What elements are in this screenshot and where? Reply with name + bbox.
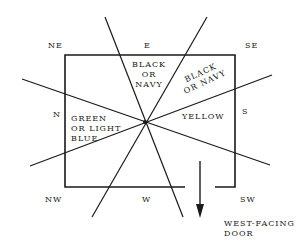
zone-north-line2: OR LIGHT (71, 124, 121, 134)
direction-label-nw: NW (45, 195, 62, 205)
zone-east-line3: NAVY (132, 80, 166, 90)
door-label: WEST-FACING DOOR (224, 219, 295, 239)
zone-east-line2: OR (132, 70, 166, 80)
zone-north-label: GREEN OR LIGHT BLUE (71, 114, 121, 144)
direction-label-se: SE (245, 41, 258, 51)
direction-label-sw: SW (240, 195, 256, 205)
arrow-down-icon (196, 204, 204, 218)
door-label-line1: WEST-FACING (224, 219, 295, 229)
zone-north-line1: GREEN (71, 114, 121, 124)
direction-label-s: S (242, 107, 248, 117)
zone-east-line1: BLACK (132, 60, 166, 70)
door-label-line2: DOOR (224, 229, 295, 239)
zone-north-line3: BLUE (71, 134, 121, 144)
direction-label-n: N (53, 110, 61, 120)
direction-label-w: W (142, 195, 151, 205)
zone-east-label: BLACK OR NAVY (132, 60, 166, 90)
center-point (143, 120, 147, 124)
zone-south-label: YELLOW (182, 112, 225, 122)
direction-label-e: E (144, 41, 151, 51)
direction-label-ne: NE (48, 41, 63, 51)
diagram-canvas (0, 0, 296, 251)
